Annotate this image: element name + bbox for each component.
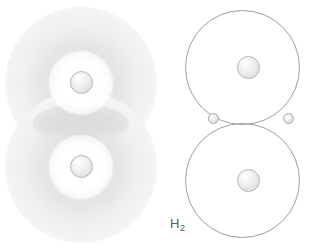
bohr-orbit-model	[165, 0, 327, 250]
formula-element-symbol: H	[170, 216, 180, 231]
nucleus-sphere-cloud-top	[70, 71, 93, 94]
nucleus-sphere-bohr-bottom	[237, 169, 260, 192]
shared-electron-right	[283, 113, 294, 124]
h2-molecule-diagram: H2	[0, 0, 327, 250]
nucleus-sphere-bohr-top	[237, 56, 260, 79]
molecule-formula-label: H2	[170, 216, 185, 231]
electron-cloud-model	[0, 0, 165, 250]
nucleus-sphere-cloud-bottom	[70, 155, 93, 178]
shared-electron-left	[208, 113, 219, 124]
formula-subscript: 2	[180, 223, 185, 233]
